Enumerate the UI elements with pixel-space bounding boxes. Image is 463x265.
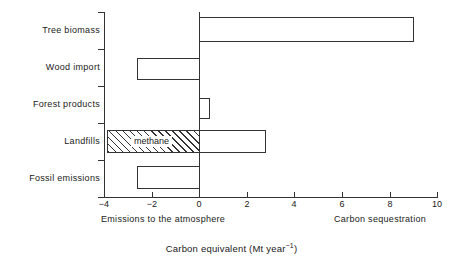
y-axis-tick [98,160,105,161]
y-axis-line [104,12,105,198]
x-axis-tick-label: 4 [279,199,309,209]
x-axis-tick-label: 0 [184,199,214,209]
x-axis-tick [152,192,153,198]
bar-wood-import [137,58,200,80]
x-axis-tick [342,192,343,198]
x-axis-tick [437,192,438,198]
x-axis-tick-label: −2 [137,199,167,209]
caption-emissions-to-the-atmosphere: Emissions to the atmosphere [101,214,225,225]
bar-forest-products [199,98,210,119]
x-axis-tick [247,192,248,198]
x-axis-tick-label: 8 [375,199,405,209]
x-axis-title-main: Carbon equivalent (Mt year [166,243,286,254]
category-label-fossil-emissions: Fossil emissions [6,173,100,184]
caption-carbon-sequestration: Carbon sequestration [334,214,426,225]
x-axis-tick-label: −4 [89,199,119,209]
bar-fossil-emissions [137,166,200,189]
x-axis-tick-label: 10 [422,199,452,209]
y-axis-tick [98,123,105,124]
y-axis-tick [98,12,105,13]
chart-figure: Tree biomass Wood import Forest products… [0,0,463,265]
y-axis-tick [98,49,105,50]
bar-tree-biomass [199,17,414,42]
x-axis-line [104,197,438,198]
x-axis-tick [294,192,295,198]
bar-landfills-sequestration [199,130,266,153]
x-axis-title-exponent: −1 [286,242,294,249]
x-axis-tick [199,192,200,198]
x-axis-tick [104,192,105,198]
x-axis-tick-label: 6 [327,199,357,209]
category-label-forest-products: Forest products [6,99,100,110]
category-label-tree-biomass: Tree biomass [6,25,100,36]
category-label-wood-import: Wood import [6,62,100,73]
x-axis-tick [390,192,391,198]
x-axis-title: Carbon equivalent (Mt year−1) [0,240,463,255]
x-axis-title-tail: ) [294,243,297,254]
x-axis-tick-label: 2 [232,199,262,209]
category-label-landfills: Landfills [6,136,100,147]
y-axis-tick [98,86,105,87]
bar-annotation-methane: methane [131,136,172,147]
